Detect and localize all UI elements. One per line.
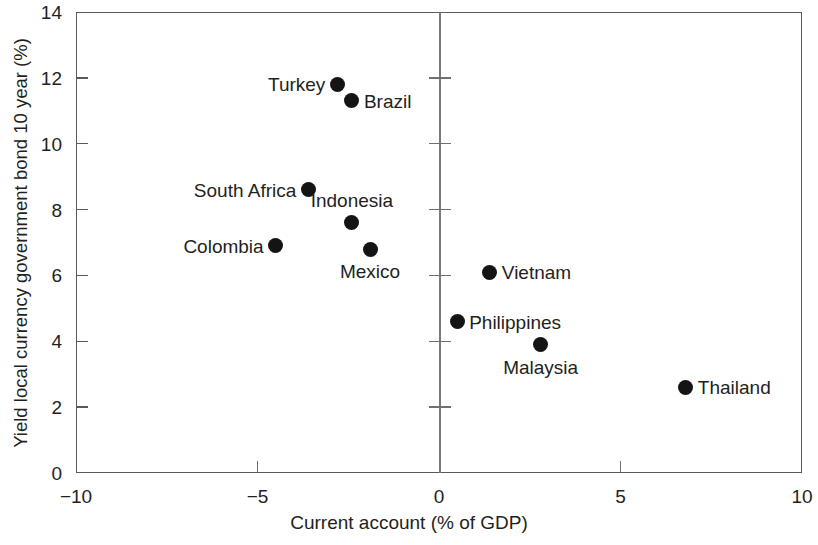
data-point-philippines[interactable] [450, 314, 465, 329]
y-tick-mark-zero-axis [429, 341, 451, 343]
data-point-vietnam[interactable] [482, 265, 497, 280]
y-tick-mark [77, 77, 88, 79]
y-tick-mark-zero-axis [429, 275, 451, 277]
x-tick-label: 5 [586, 487, 656, 506]
x-tick-label: 0 [404, 487, 474, 506]
data-point-label-indonesia: Indonesia [311, 191, 393, 210]
y-tick-mark [77, 143, 88, 145]
data-point-label-colombia: Colombia [183, 236, 263, 255]
data-point-turkey[interactable] [330, 77, 345, 92]
data-point-label-turkey: Turkey [268, 75, 325, 94]
data-point-label-philippines: Philippines [469, 312, 561, 331]
data-point-label-vietnam: Vietnam [502, 263, 571, 282]
data-point-label-mexico: Mexico [340, 262, 400, 281]
y-tick-mark-zero-axis [429, 209, 451, 211]
x-tick-label: 10 [767, 487, 818, 506]
scatter-chart: 02468101214 −10−50510 TurkeyBrazilSouth … [0, 0, 818, 545]
data-point-label-malaysia: Malaysia [503, 358, 578, 377]
x-tick-label: −10 [41, 487, 111, 506]
data-point-label-thailand: Thailand [698, 378, 771, 397]
y-tick-mark [77, 341, 88, 343]
x-tick-mark [257, 461, 259, 472]
y-tick-mark-zero-axis [429, 406, 451, 408]
y-tick-mark [77, 209, 88, 211]
y-tick-mark [77, 275, 88, 277]
x-axis-title: Current account (% of GDP) [0, 512, 818, 534]
x-tick-mark [620, 461, 622, 472]
y-tick-mark [77, 406, 88, 408]
data-point-mexico[interactable] [363, 242, 378, 257]
y-tick-mark-zero-axis [429, 77, 451, 79]
y-axis-title: Yield local currency government bond 10 … [10, 8, 32, 478]
y-tick-mark-zero-axis [429, 143, 451, 145]
data-point-label-south-africa: South Africa [194, 180, 296, 199]
data-point-label-brazil: Brazil [364, 91, 412, 110]
x-tick-label: −5 [223, 487, 293, 506]
zero-axis-line [439, 12, 441, 473]
